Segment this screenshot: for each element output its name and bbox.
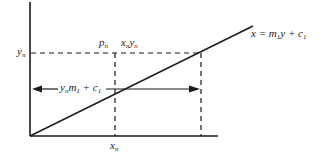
arrow-left-head-icon xyxy=(32,86,42,93)
label-arrow-expression: ynm1 + c1 xyxy=(60,82,101,95)
arrow-right-head-icon xyxy=(189,86,200,93)
label-xn-yn: xnyn xyxy=(121,37,138,50)
label-line-equation: x = m1y + c1 xyxy=(251,28,306,41)
label-yn: yn xyxy=(17,46,25,59)
diagram-canvas xyxy=(0,0,323,155)
label-xn: xn xyxy=(110,140,118,153)
label-pn: pn xyxy=(99,37,108,50)
